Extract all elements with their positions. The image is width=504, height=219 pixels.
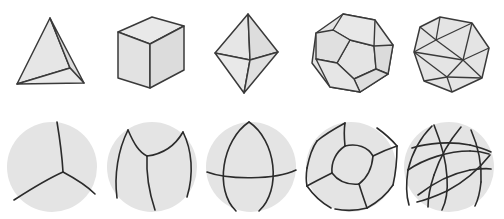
sphere-disc <box>306 122 396 212</box>
octahedron-face-upper-left <box>215 14 250 60</box>
octahedron <box>215 14 278 93</box>
spherical-dodecahedron <box>306 122 397 212</box>
tetrahedron <box>17 18 84 84</box>
sphere-disc <box>7 122 97 212</box>
spherical-tetrahedron <box>7 122 97 212</box>
spherical-octahedron <box>206 122 296 212</box>
polyhedra-row <box>17 14 489 93</box>
spherical-cube <box>107 122 197 212</box>
spherical-tessellation-row <box>7 122 494 212</box>
figure-canvas <box>0 0 504 219</box>
platonic-solids-figure <box>0 0 504 219</box>
icosahedron <box>414 17 489 92</box>
dodecahedron <box>312 14 393 92</box>
spherical-icosahedron <box>404 122 494 212</box>
cube <box>118 17 184 88</box>
sphere-disc <box>206 122 296 212</box>
